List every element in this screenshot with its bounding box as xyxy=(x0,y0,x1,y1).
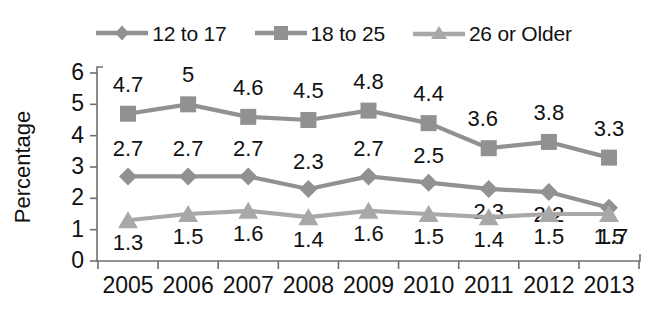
data-point-marker[interactable] xyxy=(119,167,137,185)
data-point-label: 2.7 xyxy=(353,136,384,161)
data-point-label: 1.5 xyxy=(173,224,204,249)
x-axis-tick-label: 2005 xyxy=(102,272,153,298)
data-point-label: 1.5 xyxy=(413,224,444,249)
data-point-marker[interactable] xyxy=(240,109,256,125)
data-point-marker[interactable] xyxy=(541,134,557,150)
data-point-marker[interactable] xyxy=(421,115,437,131)
data-point-label: 2.3 xyxy=(293,149,324,174)
x-axis-tick-label: 2008 xyxy=(283,272,334,298)
data-point-label: 1.4 xyxy=(473,227,504,252)
data-point-marker[interactable] xyxy=(120,106,136,122)
data-point-label: 2.7 xyxy=(113,136,144,161)
data-point-marker[interactable] xyxy=(480,180,498,198)
plot-area: 0123456Percentage20052006200720082009201… xyxy=(0,0,666,312)
data-point-label: 1.6 xyxy=(353,221,384,246)
data-point-marker[interactable] xyxy=(299,180,317,198)
data-point-label: 2.7 xyxy=(233,136,264,161)
y-axis-tick-label: 4 xyxy=(71,122,84,148)
data-point-label: 3.6 xyxy=(467,106,498,131)
data-point-label: 4.4 xyxy=(413,81,444,106)
data-point-label: 4.5 xyxy=(293,78,324,103)
data-point-marker[interactable] xyxy=(361,103,377,119)
x-axis-tick-label: 2009 xyxy=(343,272,394,298)
data-point-label: 1.4 xyxy=(293,227,324,252)
data-point-label: 2.7 xyxy=(173,136,204,161)
data-point-marker[interactable] xyxy=(180,96,196,112)
data-point-marker[interactable] xyxy=(179,167,197,185)
data-point-label: 1.3 xyxy=(113,230,144,255)
y-axis-tick-label: 2 xyxy=(71,184,84,210)
data-point-label: 1.5 xyxy=(594,224,625,249)
data-point-label: 4.6 xyxy=(233,75,264,100)
data-point-label: 3.8 xyxy=(534,100,565,125)
data-point-label: 5 xyxy=(182,62,194,87)
data-point-label: 4.7 xyxy=(113,72,144,97)
x-axis-tick-label: 2012 xyxy=(523,272,574,298)
y-axis-tick-label: 0 xyxy=(71,247,84,273)
data-point-marker[interactable] xyxy=(481,140,497,156)
data-point-label: 3.3 xyxy=(594,116,625,141)
data-point-label: 2.5 xyxy=(413,143,444,168)
y-axis-tick-label: 5 xyxy=(71,90,84,116)
x-axis-tick-label: 2006 xyxy=(163,272,214,298)
data-point-marker[interactable] xyxy=(360,167,378,185)
y-axis-tick-label: 1 xyxy=(71,216,84,242)
data-point-label: 1.6 xyxy=(233,221,264,246)
data-point-marker[interactable] xyxy=(239,167,257,185)
y-axis-title: Percentage xyxy=(10,111,35,224)
data-point-marker[interactable] xyxy=(540,183,558,201)
line-chart: 12 to 17 18 to 25 26 or Older 0123456Per… xyxy=(0,0,666,312)
data-point-label: 4.8 xyxy=(353,69,384,94)
data-point-label: 1.5 xyxy=(534,224,565,249)
y-axis-tick-label: 3 xyxy=(71,153,84,179)
data-point-marker[interactable] xyxy=(420,174,438,192)
data-point-marker[interactable] xyxy=(601,150,617,166)
x-axis-tick-label: 2013 xyxy=(583,272,634,298)
x-axis-tick-label: 2007 xyxy=(223,272,274,298)
x-axis-tick-label: 2011 xyxy=(464,272,513,298)
y-axis-tick-label: 6 xyxy=(71,59,84,85)
x-axis-tick-label: 2010 xyxy=(403,272,454,298)
data-point-marker[interactable] xyxy=(300,112,316,128)
